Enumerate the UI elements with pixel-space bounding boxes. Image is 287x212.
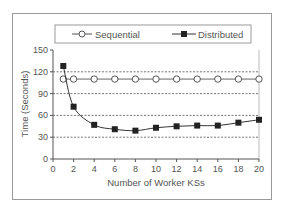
data-point-square: [112, 126, 118, 132]
x-tick-label: 10: [151, 164, 161, 174]
data-point-circle: [173, 76, 179, 82]
data-point-square: [215, 123, 221, 129]
series-line: [63, 66, 259, 131]
data-point-square: [256, 117, 262, 123]
data-point-square: [60, 63, 66, 69]
gridlines: [53, 50, 259, 159]
x-tick-label: 6: [112, 164, 117, 174]
x-tick-label: 2: [71, 164, 76, 174]
x-tick-label: 20: [254, 164, 264, 174]
data-point-circle: [235, 76, 241, 82]
data-point-circle: [153, 76, 159, 82]
y-tick-label: 0: [43, 154, 48, 164]
x-tick-label: 4: [92, 164, 97, 174]
x-tick-label: 18: [233, 164, 243, 174]
series-group: [60, 63, 262, 134]
x-tick-label: 0: [50, 164, 55, 174]
line-chart: Sequential Distributed 03060901201500246…: [0, 0, 287, 212]
data-point-circle: [70, 76, 76, 82]
data-point-circle: [132, 76, 138, 82]
y-axis-title: Time (Seconds): [19, 71, 30, 138]
legend: Sequential Distributed: [55, 25, 251, 43]
data-point-square: [132, 128, 138, 134]
data-point-square: [71, 104, 77, 110]
y-tick-label: 120: [33, 67, 48, 77]
data-point-square: [235, 120, 241, 126]
legend-distributed: Distributed: [198, 29, 243, 40]
x-tick-label: 14: [192, 164, 202, 174]
data-point-circle: [112, 76, 118, 82]
x-tick-label: 8: [133, 164, 138, 174]
series-sequential: [60, 76, 262, 82]
data-point-circle: [215, 76, 221, 82]
y-tick-label: 150: [33, 45, 48, 55]
axes: 030609012015002468101214161820: [33, 45, 264, 174]
data-point-circle: [91, 76, 97, 82]
data-point-square: [194, 123, 200, 129]
data-point-square: [91, 122, 97, 128]
data-point-square: [174, 123, 180, 129]
data-point-square: [153, 125, 159, 131]
data-point-circle: [256, 76, 262, 82]
data-point-circle: [194, 76, 200, 82]
x-tick-label: 12: [172, 164, 182, 174]
y-tick-label: 30: [38, 132, 48, 142]
distributed-marker-icon: [181, 31, 187, 37]
y-tick-label: 60: [38, 110, 48, 120]
y-tick-label: 90: [38, 89, 48, 99]
legend-sequential: Sequential: [95, 29, 140, 40]
series-distributed: [60, 63, 262, 134]
sequential-marker-icon: [79, 31, 85, 37]
x-axis-title: Number of Worker KSs: [107, 177, 205, 188]
x-tick-label: 16: [213, 164, 223, 174]
